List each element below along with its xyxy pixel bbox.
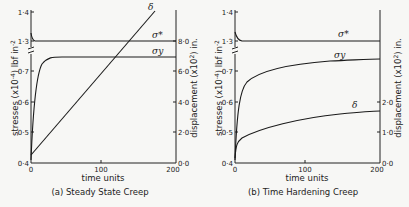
svg-text:1·4: 1·4 — [222, 9, 234, 17]
x-axis-label: time units — [82, 173, 125, 183]
svg-text:200: 200 — [166, 166, 179, 174]
panel-a: 1·4 1·3 0·7 0·6 0·5 0·4 8·0 6·0 4·0 2·0 … — [9, 2, 199, 197]
caption-b: (b) Time Hardening Creep — [248, 187, 358, 197]
axis-break-icon — [232, 47, 238, 53]
svg-text:0: 0 — [233, 166, 237, 174]
delta-curve — [31, 11, 155, 155]
svg-text:δ: δ — [148, 2, 153, 12]
y-left-axis-label: stresses (x10-4) lbf in-2 — [9, 40, 20, 136]
x-axis-label: time units — [286, 173, 329, 183]
svg-text:1·3: 1·3 — [222, 38, 233, 46]
axis-break-icon — [28, 47, 34, 53]
sigma-y-curve — [235, 59, 380, 160]
svg-text:σy: σy — [334, 50, 346, 60]
svg-text:1·3: 1·3 — [18, 38, 29, 46]
delta-curve — [235, 111, 380, 158]
svg-text:1·0: 1·0 — [382, 129, 393, 137]
caption-a: (a) Steady State Creep — [51, 187, 148, 197]
svg-text:σy: σy — [152, 46, 164, 56]
sigma-y-curve — [31, 57, 176, 160]
svg-text:8·0: 8·0 — [178, 38, 189, 46]
y-right-axis-label: displacement (x102) in. — [188, 38, 199, 137]
svg-text:σ*: σ* — [152, 30, 163, 40]
sigma-star-curve — [235, 32, 380, 41]
svg-text:4·0: 4·0 — [178, 99, 189, 107]
x-ticks: 0 100 200 — [29, 160, 180, 174]
svg-text:2·0: 2·0 — [178, 129, 189, 137]
svg-text:2·0: 2·0 — [382, 99, 393, 107]
svg-text:0: 0 — [29, 166, 33, 174]
svg-text:6·0: 6·0 — [178, 68, 189, 76]
x-ticks: 0 100 200 — [233, 160, 384, 174]
figure: 1·4 1·3 0·7 0·6 0·5 0·4 8·0 6·0 4·0 2·0 … — [0, 0, 409, 207]
svg-text:1·4: 1·4 — [18, 9, 30, 17]
right-ticks: 2·0 1·0 0·0 — [377, 99, 393, 168]
svg-text:δ: δ — [352, 100, 357, 110]
y-right-axis-label: displacement (x102) in. — [392, 38, 403, 137]
svg-text:200: 200 — [370, 166, 383, 174]
svg-text:σ*: σ* — [338, 29, 349, 39]
panel-b: 1·4 1·3 0·7 0·6 0·5 0·4 2·0 1·0 0·0 0 10… — [213, 9, 403, 198]
y-left-axis-label: stresses (x10-4) lbf in-2 — [213, 40, 224, 136]
